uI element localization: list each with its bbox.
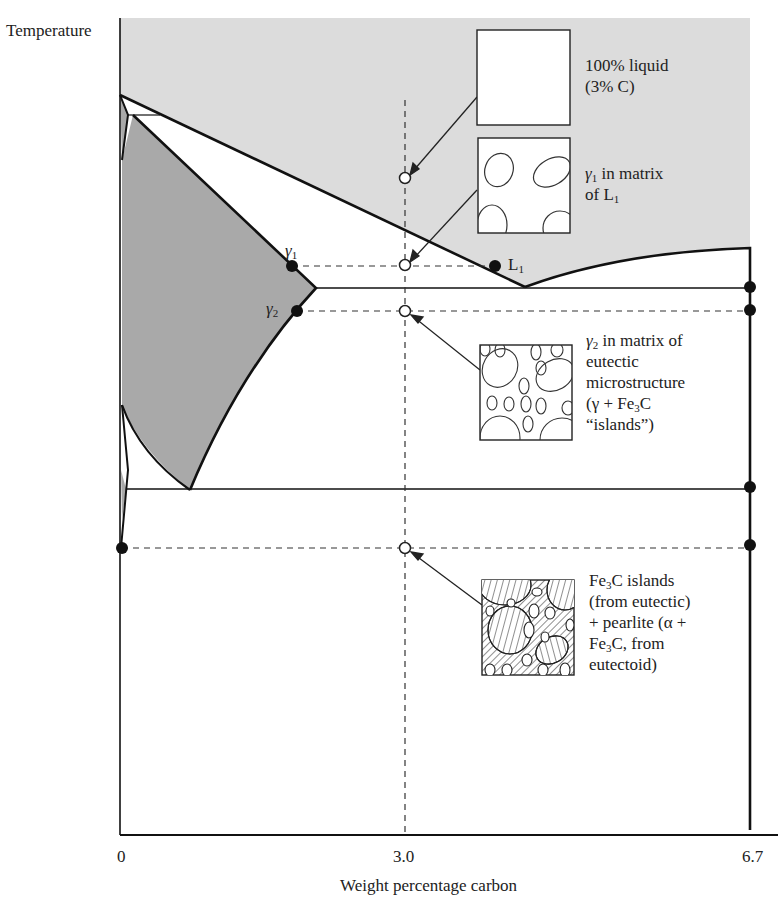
x-tick-0: 0 (117, 846, 126, 867)
liquid1-point (489, 260, 501, 272)
iron-carbon-phase-diagram (0, 0, 782, 899)
x-tick-6-7: 6.7 (742, 846, 763, 867)
x-axis-label: Weight percentage carbon (340, 875, 517, 896)
state-point-room (400, 543, 411, 554)
microstructure-eutectic (475, 342, 584, 462)
x-tick-3: 3.0 (393, 846, 414, 867)
liquid1-label: L1 (508, 254, 524, 275)
gamma2-point (291, 305, 303, 317)
gamma1-label: γ1 (285, 240, 297, 261)
y-axis-label: Temperature (6, 20, 92, 41)
callout-gamma1-text: γ1 in matrix of L1 (585, 163, 663, 205)
microstructure-liquid (477, 30, 570, 125)
gamma1-point (286, 260, 298, 272)
gamma2-label: γ2 (266, 298, 278, 319)
state-point-gamma1 (400, 260, 411, 271)
callout-pearlite-text: Fe3C islands (from eutectic) + pearlite … (589, 570, 690, 675)
state-point-gamma2 (400, 306, 411, 317)
microstructure-pearlite (479, 565, 583, 677)
microstructure-gamma-in-liquid (477, 138, 577, 245)
callout-liquid-text: 100% liquid (3% C) (585, 55, 669, 97)
callout-eutectic-text: γ2 in matrix of eutectic microstructure … (586, 330, 685, 435)
state-point-liquid (400, 173, 411, 184)
